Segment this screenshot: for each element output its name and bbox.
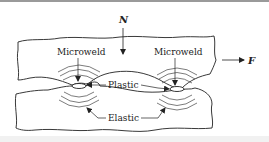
microweld-right-label: Microweld [154,47,203,57]
microweld-diagram: N F Microweld Microweld Plastic Elastic [0,0,269,142]
elastic-label: Elastic [108,113,139,123]
plastic-leader-right [141,85,169,89]
elastic-leader-right [141,108,165,118]
elastic-leader-left [87,108,106,118]
microweld-left-junction [72,84,86,89]
microweld-right-junction [170,87,184,92]
microweld-left-label: Microweld [57,47,106,57]
normal-force-label: N [118,14,129,25]
friction-force-label: F [247,55,256,66]
plastic-label: Plastic [108,80,138,90]
diagram-frame: N F Microweld Microweld Plastic Elastic [0,0,269,142]
